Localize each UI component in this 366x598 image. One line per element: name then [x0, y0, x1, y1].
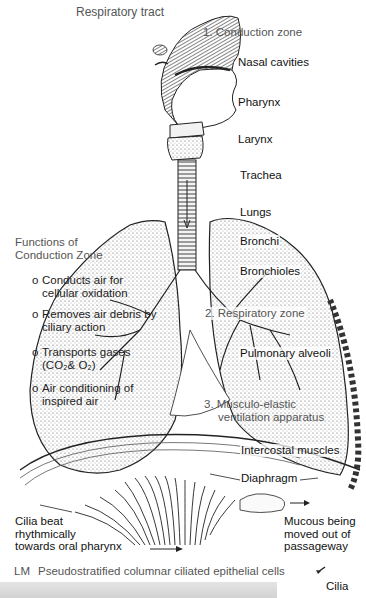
- diagram-title: Respiratory tract: [76, 6, 164, 19]
- label-ventilation-line2: ventilation apparatus: [218, 411, 324, 424]
- cilia-caption-line3: towards oral pharynx: [15, 540, 122, 553]
- function-line2: inspired air: [32, 395, 133, 408]
- function-item: oRemoves air debris by ciliary action: [32, 308, 156, 333]
- label-larynx: Larynx: [238, 133, 273, 146]
- cilia-caption-line1: Cilia beat: [15, 515, 122, 528]
- function-line1: Conducts air for: [42, 274, 123, 286]
- function-line1: Transports gases: [42, 346, 130, 358]
- bullet: o: [32, 346, 42, 359]
- label-bronchi: Bronchi: [239, 235, 280, 248]
- label-cilia: Cilia: [326, 580, 348, 593]
- anatomy-illustration: [0, 0, 366, 598]
- cilia-beat-caption: Cilia beat rhythmically towards oral pha…: [15, 515, 122, 553]
- bullet: o: [32, 382, 42, 395]
- micrograph-image: [0, 582, 277, 598]
- label-trachea: Trachea: [240, 169, 282, 182]
- functions-heading-line2: Conduction Zone: [15, 249, 103, 262]
- mucous-caption-line1: Mucous being: [284, 515, 356, 528]
- label-conduction-zone: 1. Conduction zone: [203, 26, 302, 39]
- larynx-drawing: [168, 122, 205, 160]
- label-nasal-cavities: Nasal cavities: [238, 56, 309, 69]
- function-line2: cellular oxidation: [32, 287, 128, 300]
- function-line2: ciliary action: [32, 321, 156, 334]
- micrograph-caption: Pseudostratified columnar ciliated epith…: [38, 565, 285, 578]
- bullet: o: [32, 308, 42, 321]
- label-ventilation-line1: 3. Musculo-elastic: [204, 398, 296, 411]
- function-item: oAir conditioning of inspired air: [32, 382, 133, 407]
- mucous-caption: Mucous being moved out of passageway: [284, 515, 356, 553]
- function-line1: Removes air debris by: [42, 308, 156, 320]
- label-lungs: Lungs: [240, 206, 271, 219]
- function-line1: Air conditioning of: [42, 382, 133, 394]
- micrograph-prefix: LM: [14, 565, 30, 578]
- bullet: o: [32, 274, 42, 287]
- function-item: oTransports gases (CO₂& O₂): [32, 346, 130, 371]
- label-pulmonary-alveoli: Pulmonary alveoli: [239, 347, 332, 360]
- mucous-caption-line3: passageway: [284, 540, 356, 553]
- label-intercostal-muscles: Intercostal muscles: [240, 444, 340, 457]
- mucous-caption-line2: moved out of: [284, 528, 356, 541]
- label-respiratory-zone: 2. Respiratory zone: [204, 307, 306, 320]
- cilia-caption-line2: rhythmically: [15, 528, 122, 541]
- functions-heading-line1: Functions of: [15, 236, 78, 249]
- mucous-drawing: [240, 494, 285, 513]
- label-pharynx: Pharynx: [238, 96, 280, 109]
- function-line2: (CO₂& O₂): [32, 359, 130, 372]
- respiratory-diagram: Respiratory tract 1. Conduction zone Nas…: [0, 0, 366, 598]
- label-diaphragm: Diaphragm: [240, 472, 298, 485]
- label-bronchioles: Bronchioles: [239, 265, 301, 278]
- function-item: oConducts air for cellular oxidation: [32, 274, 128, 299]
